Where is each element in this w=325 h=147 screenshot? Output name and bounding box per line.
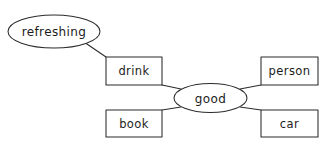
- word-web-diagram: refreshing drink book person car good: [0, 0, 325, 147]
- drink-label: drink: [118, 64, 149, 78]
- edge-refreshing-drink: [84, 42, 106, 57]
- car-label: car: [280, 117, 299, 131]
- edge-book-good: [162, 107, 181, 110]
- diagram-canvas: refreshing drink book person car good: [0, 0, 325, 147]
- edge-good-car: [240, 107, 261, 110]
- node-person[interactable]: person: [261, 57, 318, 85]
- node-car[interactable]: car: [261, 110, 318, 137]
- node-book[interactable]: book: [106, 110, 162, 137]
- node-drink[interactable]: drink: [106, 57, 162, 85]
- edge-drink-good: [162, 85, 181, 89]
- book-label: book: [119, 117, 149, 131]
- person-label: person: [269, 64, 311, 78]
- node-good[interactable]: good: [174, 84, 247, 113]
- good-label: good: [195, 92, 227, 106]
- node-refreshing[interactable]: refreshing: [8, 15, 100, 48]
- edge-good-person: [240, 85, 261, 89]
- refreshing-label: refreshing: [22, 25, 87, 39]
